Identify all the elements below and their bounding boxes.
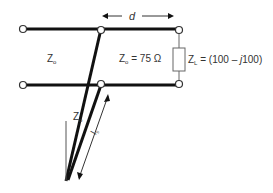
d-arrowhead-left-icon: [102, 13, 108, 19]
junction-node: [98, 81, 105, 88]
terminal-node: [20, 82, 27, 89]
arrowhead-down-icon: [77, 172, 83, 180]
label-stub-length: ls: [88, 128, 100, 136]
load-node: [176, 27, 183, 34]
label-zl: ZL = (100 – j100): [188, 54, 262, 66]
label-z0-75: Zo = 75 Ω: [119, 53, 162, 65]
stub-conductor-left: [66, 29, 101, 181]
label-d: d: [129, 10, 136, 22]
terminal-node: [20, 26, 27, 33]
label-z0-left: Zo: [47, 53, 57, 65]
arrowhead-up-icon: [104, 94, 110, 102]
load-impedance-box: [173, 48, 185, 71]
stub-matching-diagram: d Zo Zo = 75 Ω ZL = (100 – j100) Zo ls: [0, 0, 273, 193]
junction-node: [98, 27, 105, 34]
load-node: [176, 81, 183, 88]
d-arrowhead-right-icon: [168, 13, 174, 19]
